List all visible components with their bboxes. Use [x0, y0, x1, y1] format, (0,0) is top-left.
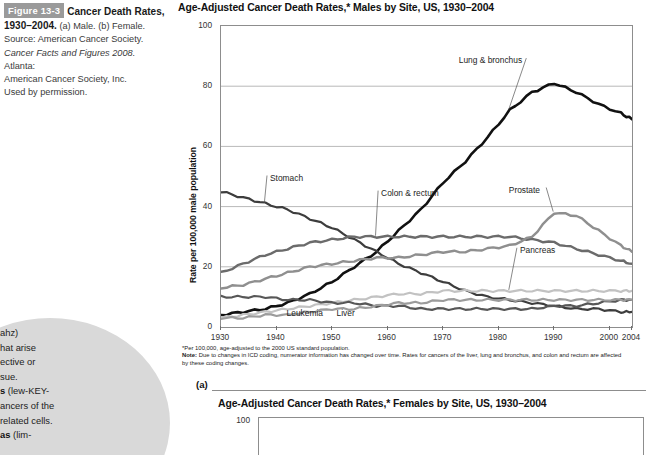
panel-a-footnote: *Per 100,000, age-adjusted to the 2000 U…: [182, 345, 628, 367]
series-label-prostate: Prostate: [509, 185, 540, 195]
caption-source-4: Used by permission.: [4, 86, 166, 99]
series-label-stomach: Stomach: [270, 173, 303, 183]
figure-number-badge: Figure 13-3: [4, 3, 64, 18]
glossary-term-lymphomas: as: [0, 429, 10, 440]
panel-a-plot-area: Rate per 100,000 male population 0204060…: [176, 15, 646, 363]
glossary-text: ahz) hat arise ective or sue. s (lew-KEY…: [0, 326, 172, 443]
footnote-star-line: *Per 100,000, age-adjusted to the 2000 U…: [182, 345, 628, 352]
x-tick-1950: [331, 326, 332, 330]
x-tick-1990: [553, 326, 554, 330]
x-tick-2000: [609, 326, 610, 330]
panel-b-title: Age-Adjusted Cancer Death Rates,* Female…: [218, 398, 547, 409]
y-tick-label-100: 100: [186, 20, 212, 30]
x-tick-label-1930: 1930: [203, 332, 237, 342]
figure-caption: Figure 13-3Cancer Death Rates, 1930–2004…: [0, 0, 172, 300]
glossary-line-3: ective or: [0, 355, 172, 370]
caption-year-range: 1930–2004.: [4, 20, 57, 31]
plot-frame-b: [258, 417, 644, 455]
x-tick-label-1960: 1960: [370, 332, 404, 342]
x-tick-label-2004: 2004: [614, 332, 648, 342]
y-tick-label-20: 20: [186, 261, 212, 271]
caption-headline: Figure 13-3Cancer Death Rates,: [4, 3, 166, 19]
panel-a-title: Age-Adjusted Cancer Death Rates,* Males …: [178, 2, 646, 13]
series-label-pancreas: Pancreas: [520, 245, 555, 255]
x-tick-label-1940: 1940: [259, 332, 293, 342]
y-tick-label-80: 80: [186, 80, 212, 90]
caption-source-2: Cancer Facts and Figures 2008. Atlanta:: [4, 47, 166, 73]
glossary-line-5: s (lew-KEY-: [0, 384, 172, 399]
series-label-lung-bronchus: Lung & bronchus: [459, 55, 522, 65]
glossary-line-8-rest: (lim-: [10, 429, 31, 440]
x-tick-label-1990: 1990: [536, 332, 570, 342]
series-label-liver: Liver: [337, 308, 355, 318]
series-label-colon-rectum: Colon & rectum: [381, 188, 439, 198]
panel-a-males: Age-Adjusted Cancer Death Rates,* Males …: [176, 2, 646, 380]
x-tick-label-1980: 1980: [481, 332, 515, 342]
glossary-line-2: hat arise: [0, 341, 172, 356]
x-tick-1970: [442, 326, 443, 330]
y-tick-label-0: 0: [186, 321, 212, 331]
caption-title: Cancer Death Rates,: [67, 6, 164, 17]
x-tick-1940: [276, 326, 277, 330]
caption-source-1: Source: American Cancer Society.: [4, 33, 166, 46]
x-tick-1980: [498, 326, 499, 330]
panel-b-ytick-100: 100: [224, 415, 250, 425]
y-tick-label-40: 40: [186, 201, 212, 211]
glossary-line-6: ancers of the: [0, 399, 172, 414]
panel-a-letter: (a): [196, 379, 208, 390]
glossary-line-5-rest: (lew-KEY-: [5, 385, 49, 396]
x-tick-2004: [631, 326, 632, 330]
x-tick-1930: [220, 326, 221, 330]
figure-page: Figure 13-3Cancer Death Rates, 1930–2004…: [0, 0, 649, 455]
footnote-note-line: Note: Due to changes in ICD coding, nume…: [182, 352, 628, 367]
x-tick-label-1950: 1950: [314, 332, 348, 342]
x-tick-1960: [387, 326, 388, 330]
caption-source-3: American Cancer Society, Inc.: [4, 73, 166, 86]
glossary-line-4: sue.: [0, 370, 172, 385]
panel-b-females: Age-Adjusted Cancer Death Rates,* Female…: [212, 390, 646, 455]
panel-b-top-divider: [212, 390, 646, 391]
caption-panels: (a) Male. (b) Female.: [59, 21, 145, 31]
x-tick-label-1970: 1970: [425, 332, 459, 342]
glossary-line-8: as (lim-: [0, 428, 172, 443]
caption-source-city: Atlanta:: [4, 61, 35, 71]
series-label-leukemia: Leukemia: [287, 308, 323, 318]
footnote-note-text: Due to changes in ICD coding, numerator …: [182, 352, 621, 365]
y-tick-label-60: 60: [186, 140, 212, 150]
glossary-line-1: ahz): [0, 326, 172, 341]
caption-source-italic: Cancer Facts and Figures 2008.: [4, 48, 135, 58]
footnote-note-label: Note:: [182, 352, 197, 358]
glossary-line-7: related cells.: [0, 414, 172, 429]
caption-subhead: 1930–2004. (a) Male. (b) Female.: [4, 19, 166, 33]
